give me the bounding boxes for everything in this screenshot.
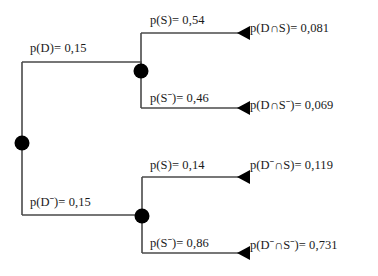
root-node <box>15 136 30 151</box>
outcome-label-dsn: p(D∩Sˉ)= 0,069 <box>250 99 333 112</box>
outcome-label-dnsn: p(Dˉ∩Sˉ)= 0,731 <box>250 239 338 252</box>
arrowhead-outcome-dnsn <box>237 246 250 260</box>
branch-label-d-not: p(Dˉ)= 0,15 <box>30 196 91 209</box>
arrowhead-outcome-dsn <box>237 101 250 115</box>
probability-tree-diagram: p(D)= 0,15 p(Dˉ)= 0,15 p(S)= 0,54 p(Sˉ)=… <box>0 0 378 276</box>
branch-label-d: p(D)= 0,15 <box>30 42 87 55</box>
outcome-label-ds: p(D∩S)= 0,081 <box>250 22 329 35</box>
arrowhead-outcome-ds <box>237 26 250 40</box>
branch-label-d-s: p(S)= 0,54 <box>150 14 205 27</box>
edge-root-to-d <box>22 62 141 71</box>
branch-node-d <box>134 64 149 79</box>
branch-label-d-not-s-not: p(Sˉ)= 0,86 <box>150 237 209 250</box>
branch-node-d-not <box>135 209 150 224</box>
branch-label-d-s-not: p(Sˉ)= 0,46 <box>150 92 209 105</box>
arrowhead-outcome-dns <box>237 170 250 184</box>
branch-label-d-not-s: p(S)= 0,14 <box>150 159 205 172</box>
outcome-label-dns: p(Dˉ∩S)= 0,119 <box>250 159 333 172</box>
edge-root-to-d-not <box>22 215 142 216</box>
